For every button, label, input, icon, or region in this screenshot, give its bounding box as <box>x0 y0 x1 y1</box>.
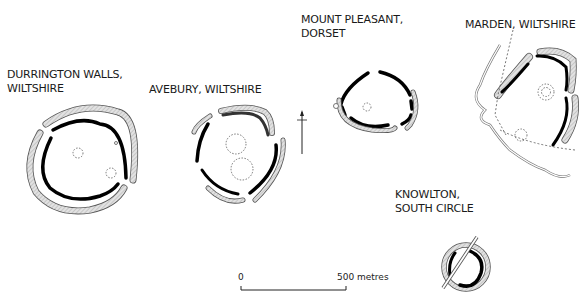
site-label-durrington: DURRINGTON WALLS, WILTSHIRE <box>7 68 123 96</box>
site-label-avebury: AVEBURY, WILTSHIRE <box>149 83 262 97</box>
marden-plan <box>476 30 576 177</box>
scale-bar <box>241 286 346 290</box>
avebury-plan <box>194 108 283 201</box>
site-name-line2: SOUTH CIRCLE <box>395 202 474 216</box>
scale-start-label: 0 <box>238 272 244 282</box>
mount-pleasant-plan <box>334 72 416 131</box>
durrington-walls-plan <box>30 108 135 211</box>
scale-end-label: 500 metres <box>337 272 389 282</box>
site-name-line2: DORSET <box>301 27 403 41</box>
henge-plans-diagram <box>0 0 588 301</box>
site-label-mount-pleasant: MOUNT PLEASANT, DORSET <box>301 13 403 41</box>
site-name-line1: MARDEN, WILTSHIRE <box>465 18 575 32</box>
site-name-line1: AVEBURY, WILTSHIRE <box>149 83 262 97</box>
north-arrow-icon <box>297 110 307 154</box>
knowlton-south-circle-plan <box>443 237 488 289</box>
site-name-line1: DURRINGTON WALLS, <box>7 68 123 82</box>
site-name-line1: KNOWLTON, <box>395 188 474 202</box>
site-name-line1: MOUNT PLEASANT, <box>301 13 403 27</box>
site-label-knowlton: KNOWLTON, SOUTH CIRCLE <box>395 188 474 216</box>
site-name-line2: WILTSHIRE <box>7 82 123 96</box>
site-label-marden: MARDEN, WILTSHIRE <box>465 18 575 32</box>
